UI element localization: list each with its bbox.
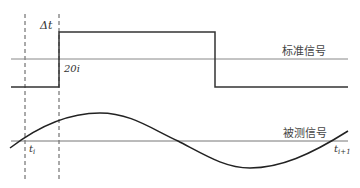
- ti-label: ti: [29, 143, 35, 156]
- ti1-label: ti+1: [334, 143, 351, 156]
- delta-t-label: Δt: [39, 19, 53, 32]
- twenty-i-label: 20i: [63, 63, 80, 74]
- phase-diagram: Δt 20i 标准信号 被测信号 ti ti+1: [0, 0, 360, 188]
- measured-signal-label: 被测信号: [283, 127, 327, 140]
- reference-signal-label: 标准信号: [282, 44, 326, 58]
